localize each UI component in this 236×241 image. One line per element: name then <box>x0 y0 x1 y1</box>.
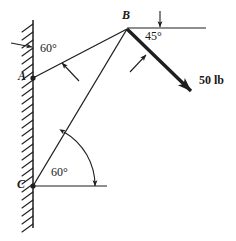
angle-B-indicator-arrow <box>130 55 146 72</box>
diagram-svg <box>0 0 236 241</box>
wall-group <box>22 20 33 232</box>
angle-arc-60-at-C <box>64 132 95 186</box>
point-label-C: C <box>17 178 25 190</box>
joint-dot-A <box>30 75 35 80</box>
point-label-A: A <box>18 70 26 82</box>
angle-label-at-B: 45° <box>145 30 162 42</box>
joint-dot-C <box>30 183 35 188</box>
wall-hatching <box>22 24 33 232</box>
angle-A-indicator-arrow <box>62 63 79 81</box>
force-label-50lb: 50 lb <box>199 74 224 86</box>
point-label-B: B <box>122 9 130 21</box>
angle-label-at-A: 60° <box>40 42 57 54</box>
statics-diagram-canvas: A B C 60° 45° 60° 50 lb <box>0 0 236 241</box>
angle-label-at-C: 60° <box>51 166 68 178</box>
